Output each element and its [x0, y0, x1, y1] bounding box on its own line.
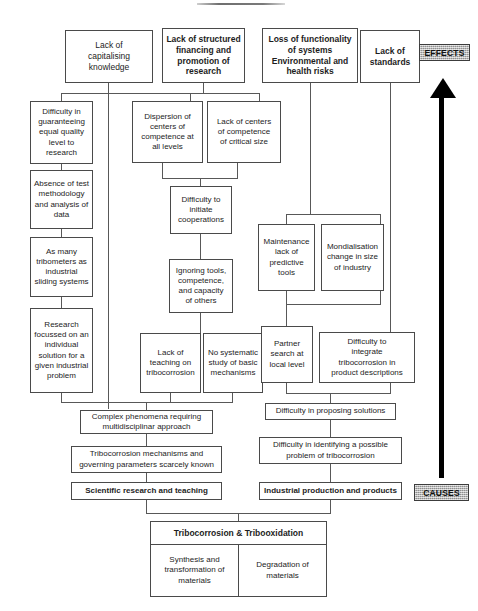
connector-coop-to-ignoring	[200, 234, 201, 259]
node-dispersion-of-centers[interactable]: Dispersion of centers of competence at a…	[132, 101, 203, 163]
connector-absence-to-tribometers	[61, 229, 62, 237]
node-tribocorrosion-tribooxidation[interactable]: Tribocorrosion & Tribooxidation Synthesi…	[150, 521, 327, 597]
node-complex-phenomena[interactable]: Complex phenomena requiring multidiscipl…	[80, 410, 213, 434]
connector-standards-down	[390, 83, 391, 332]
connector-ignoring-to-nosystematic	[200, 313, 201, 335]
connector-loss-down	[310, 83, 311, 215]
connector-loss-bus	[286, 214, 380, 215]
connector-scientific-down	[146, 499, 147, 514]
connector-maintenance-down	[286, 291, 287, 305]
node-ignoring-tools[interactable]: Ignoring tools, competence, and capacity…	[169, 259, 233, 313]
node-lack-centers-critical-size[interactable]: Lack of centers of competence of critica…	[207, 101, 281, 163]
badge-effects: EFFECTS	[419, 44, 470, 61]
connector-bus-to-proposing	[330, 393, 331, 403]
connector-to-lack-centers	[259, 93, 260, 101]
node-maintenance-lack-predictive-tools[interactable]: Maintenance lack of predictive tools	[258, 224, 315, 291]
cell-degradation-materials[interactable]: Degradation of materials	[238, 545, 326, 596]
connector-to-difficulty-guaranteeing	[61, 93, 62, 101]
connector-industrial-down	[330, 499, 331, 514]
connector-mondialisation-down	[380, 291, 381, 305]
connector-mid-bus	[170, 402, 232, 403]
connector-bus-to-complex	[146, 402, 147, 410]
node-loss-of-functionality[interactable]: Loss of functionality of systems Environ…	[262, 28, 358, 83]
connector-tribometers-to-research	[61, 297, 62, 308]
connector-capitalising-spine	[108, 93, 109, 409]
connector-dispersion-down	[162, 163, 163, 179]
node-lack-structured-financing[interactable]: Lack of structured financing and promoti…	[162, 28, 245, 83]
node-partner-search-local-level[interactable]: Partner search at local level	[261, 326, 313, 383]
node-absence-test-methodology[interactable]: Absence of test methodology and analysis…	[30, 170, 93, 229]
arrow-shaft	[439, 96, 444, 478]
connector-lackcenters-down	[237, 163, 238, 179]
node-scientific-research-and-teaching[interactable]: Scientific research and teaching	[71, 482, 222, 500]
connector-bus-to-partner	[286, 304, 287, 326]
node-industrial-production-and-products[interactable]: Industrial production and products	[259, 482, 402, 500]
node-difficulty-identifying-problem[interactable]: Difficulty in identifying a possible pro…	[259, 437, 402, 464]
connector-financing-bus	[190, 93, 260, 94]
connector-nosystematic-down	[232, 393, 233, 403]
tribocorrosion-subcells: Synthesis and transformation of material…	[151, 545, 326, 596]
top-rule-divider	[197, 3, 285, 5]
node-difficulty-initiate-cooperations[interactable]: Difficulty to initiate cooperations	[170, 186, 232, 234]
node-difficulty-integrate-tribocorrosion[interactable]: Difficulty to integrate tribocorrosion i…	[319, 332, 415, 383]
node-difficulty-proposing-solutions[interactable]: Difficulty in proposing solutions	[265, 403, 396, 420]
node-research-focussed-individual-solution[interactable]: Research focussed on an individual solut…	[30, 308, 93, 393]
connector-bus-to-coop	[200, 178, 201, 186]
node-lack-teaching-tribocorrosion[interactable]: Lack of teaching on tribocorrosion	[140, 333, 201, 393]
badge-causes: CAUSES	[414, 484, 469, 501]
node-lack-capitalising-knowledge[interactable]: Lack of capitalising knowledge	[65, 30, 153, 83]
connector-proposing-to-identifying	[330, 420, 331, 437]
arrow-head-icon	[430, 78, 456, 98]
connector-partner-bus	[286, 304, 381, 305]
node-tribocorrosion-mechanisms[interactable]: Tribocorrosion mechanisms and governing …	[71, 446, 222, 473]
cell-synthesis-transformation[interactable]: Synthesis and transformation of material…	[151, 545, 238, 596]
tribocorrosion-header: Tribocorrosion & Tribooxidation	[151, 522, 326, 545]
connector-bus-to-tribocorrosion	[238, 513, 239, 521]
connector-complex-to-mechanisms	[146, 434, 147, 446]
node-lack-of-standards[interactable]: Lack of standards	[360, 30, 420, 83]
node-difficulty-guaranteeing[interactable]: Difficulty in guaranteeing equal quality…	[30, 101, 93, 164]
connector-proposing-bus	[286, 393, 391, 394]
node-mondialisation-change-in-size[interactable]: Mondialisation change in size of industr…	[321, 224, 384, 291]
connector-capitalising-bus	[61, 93, 190, 94]
connector-to-dispersion	[190, 93, 191, 101]
connector-to-mondialisation	[380, 214, 381, 224]
node-as-many-tribometers[interactable]: As many tribometers as industrial slidin…	[30, 237, 93, 297]
node-no-systematic-study[interactable]: No systematic study of basic mechanisms	[203, 333, 263, 393]
connector-research-bus	[61, 402, 171, 403]
tribocorrosion-cause-effect-diagram: Lack of capitalising knowledge Lack of s…	[0, 0, 478, 611]
connector-mechanisms-to-scientific	[146, 473, 147, 482]
connector-to-maintenance	[286, 214, 287, 224]
connector-identifying-to-industrial	[330, 464, 331, 482]
